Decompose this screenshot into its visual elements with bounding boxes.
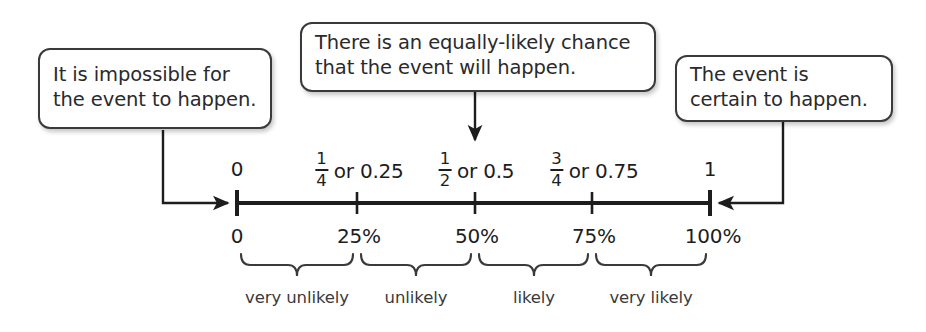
percent-label-75: 75% — [572, 224, 616, 248]
callout-certain-line2: certain to happen. — [690, 88, 878, 113]
value-label-0-5: 1 2 or 0.5 — [438, 152, 515, 190]
fraction-one-half-numerator: 1 — [438, 151, 452, 169]
fraction-one-half: 1 2 — [438, 151, 452, 189]
callout-impossible-line1: It is impossible for — [53, 63, 257, 88]
brace-very-likely — [596, 254, 706, 276]
fraction-one-quarter: 1 4 — [314, 151, 328, 189]
callout-certain: The event is certain to happen. — [675, 55, 893, 122]
percent-label-25: 25% — [337, 224, 381, 248]
fraction-three-quarters-denominator: 4 — [549, 172, 563, 190]
brace-likely — [479, 254, 588, 276]
callout-impossible-line2: the event to happen. — [53, 88, 257, 113]
callout-certain-line1: The event is — [690, 63, 878, 88]
percent-label-50: 50% — [455, 224, 499, 248]
value-label-0: 0 — [231, 157, 244, 181]
value-label-0-75-or-text: or 0.75 — [569, 159, 639, 183]
percent-label-100: 100% — [685, 224, 741, 248]
callout-impossible: It is impossible for the event to happen… — [38, 48, 272, 129]
value-label-0-25: 1 4 or 0.25 — [314, 152, 403, 190]
brace-very-unlikely — [241, 254, 353, 276]
fraction-one-quarter-numerator: 1 — [314, 151, 328, 169]
value-label-0-25-or-text: or 0.25 — [334, 159, 404, 183]
callout-equally-likely: There is an equally-likely chance that t… — [300, 22, 656, 92]
value-label-0-text: 0 — [231, 157, 244, 181]
interval-label-very-unlikely: very unlikely — [245, 288, 349, 307]
value-label-0-75: 3 4 or 0.75 — [549, 152, 638, 190]
interval-label-likely: likely — [513, 288, 555, 307]
interval-label-unlikely: unlikely — [385, 288, 448, 307]
interval-braces — [241, 254, 706, 276]
value-label-0-5-or-text: or 0.5 — [457, 159, 514, 183]
interval-label-very-likely: very likely — [609, 288, 692, 307]
brace-unlikely — [361, 254, 471, 276]
connector-impossible-to-zero — [163, 130, 228, 203]
connector-certain-to-one — [719, 122, 783, 203]
fraction-one-half-denominator: 2 — [438, 172, 452, 190]
fraction-one-quarter-denominator: 4 — [314, 172, 328, 190]
fraction-three-quarters: 3 4 — [549, 151, 563, 189]
value-label-1-text: 1 — [704, 157, 717, 181]
probability-number-line-diagram: It is impossible for the event to happen… — [0, 0, 926, 332]
callout-equally-likely-line1: There is an equally-likely chance — [315, 31, 641, 56]
fraction-three-quarters-numerator: 3 — [549, 151, 563, 169]
percent-label-0: 0 — [231, 224, 244, 248]
value-label-1: 1 — [704, 157, 717, 181]
callout-equally-likely-line2: that the event will happen. — [315, 56, 641, 81]
